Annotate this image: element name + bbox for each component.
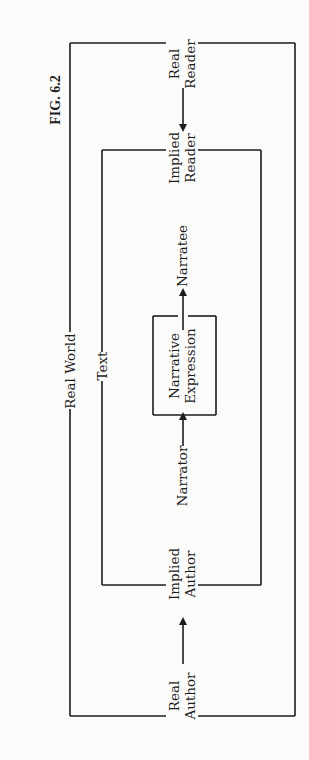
svg-text:Reader: Reader xyxy=(182,39,198,89)
svg-text:Text: Text xyxy=(94,351,110,381)
text-label: Text xyxy=(94,351,110,381)
implied-reader-node: Implied Reader xyxy=(166,132,198,184)
narrative-expression-label: Narrative Expression xyxy=(166,328,198,404)
svg-text:Expression: Expression xyxy=(182,328,198,404)
real-author-node: Real Author xyxy=(166,672,198,721)
svg-text:Real: Real xyxy=(166,681,182,712)
svg-text:Narrative: Narrative xyxy=(166,333,182,399)
svg-text:Narrator: Narrator xyxy=(174,445,190,506)
svg-text:Implied: Implied xyxy=(166,548,182,600)
svg-text:Author: Author xyxy=(182,672,198,721)
svg-text:Reader: Reader xyxy=(182,133,198,183)
communication-model-diagram: FIG. 6.2 Real World Text xyxy=(0,0,309,760)
figure-label-text: FIG. 6.2 xyxy=(48,75,63,124)
figure-label: FIG. 6.2 xyxy=(48,75,63,124)
real-reader-node: Real Reader xyxy=(166,39,198,89)
svg-text:Author: Author xyxy=(182,550,198,599)
svg-text:Implied: Implied xyxy=(166,132,182,184)
svg-text:Real World: Real World xyxy=(62,333,78,409)
svg-text:Narratee: Narratee xyxy=(174,225,190,287)
svg-text:Real: Real xyxy=(166,49,182,80)
narrator-node: Narrator xyxy=(174,445,190,506)
implied-author-node: Implied Author xyxy=(166,548,198,600)
real-world-label: Real World xyxy=(62,333,78,409)
narratee-node: Narratee xyxy=(174,225,190,287)
